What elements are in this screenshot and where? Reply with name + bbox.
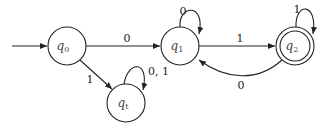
state-q0: q0 <box>48 27 86 65</box>
transition-q0-qt: 1 <box>80 60 112 89</box>
state-q1: q1 <box>161 27 199 65</box>
transition-q1-q2: 1 <box>199 32 275 46</box>
state-q2-accepting: q2 <box>276 27 314 65</box>
transition-label: 0 <box>180 5 187 18</box>
transition-label: 1 <box>237 32 244 45</box>
transition-q2-q1: 0 <box>199 60 282 92</box>
transition-label: 0, 1 <box>148 65 169 78</box>
transition-label: 0 <box>124 32 131 45</box>
state-qt: qt <box>107 84 145 122</box>
transition-q0-q1: 0 <box>86 32 160 46</box>
transition-label: 1 <box>294 3 301 16</box>
transition-label: 0 <box>238 79 245 92</box>
transition-label: 1 <box>87 73 94 86</box>
automaton-diagram: 0 1 0, 1 0 1 1 0 q0 q1 q2 <box>0 0 322 130</box>
